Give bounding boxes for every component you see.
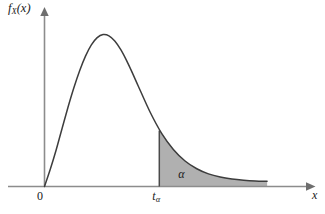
critical-value-tick-label: tα	[152, 190, 160, 204]
y-axis-label-argument: (x)	[17, 1, 31, 15]
critical-value-subscript: α	[156, 194, 160, 204]
plot-canvas	[0, 0, 325, 214]
x-axis-label: x	[312, 189, 317, 201]
density-curve-figure: fX(x) x 0 tα α	[0, 0, 325, 214]
density-curve	[45, 35, 268, 187]
upper-tail-shaded-area-fill	[159, 131, 267, 187]
y-axis-arrowhead	[40, 7, 48, 16]
tail-area-label: α	[178, 168, 184, 180]
y-axis-label: fX(x)	[8, 2, 31, 16]
origin-tick-label: 0	[37, 190, 43, 202]
